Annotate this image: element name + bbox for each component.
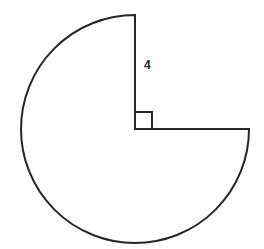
circle-sector-diagram: 4 (0, 0, 264, 249)
right-angle-marker-icon (135, 112, 152, 129)
circle-major-arc-with-radii (21, 15, 249, 243)
geometry-figure-canvas: 4 (0, 0, 264, 249)
radius-length-label: 4 (144, 58, 151, 72)
